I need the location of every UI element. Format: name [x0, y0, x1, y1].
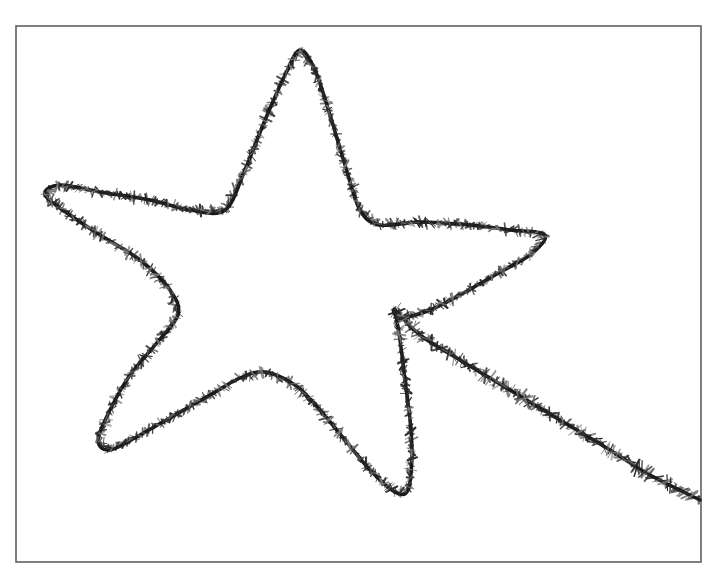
photo-frame: [16, 26, 701, 562]
photo-canvas: [0, 0, 719, 579]
